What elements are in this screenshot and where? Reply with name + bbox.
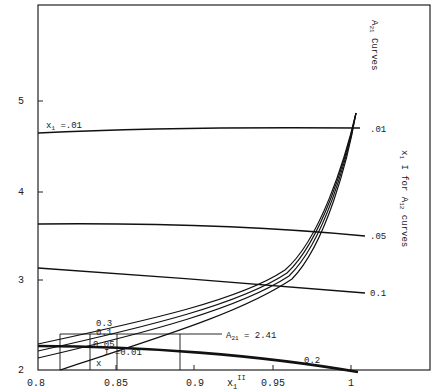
curve-a21-005 <box>38 113 356 358</box>
curve-a21-03 <box>38 113 356 344</box>
y-tick-labels: 5 4 3 2 <box>18 96 24 376</box>
right-label-02: 0.2 <box>304 356 320 366</box>
right-label-005: .05 <box>370 232 386 242</box>
y-tick: 5 <box>18 96 24 107</box>
label-x1: x <box>96 359 101 369</box>
y-tick: 3 <box>18 275 24 286</box>
right-label-01: 0.1 <box>370 289 386 299</box>
x-tick: 0.9 <box>186 378 204 389</box>
x-tick: 0.8 <box>27 378 45 389</box>
a21-curves <box>38 113 356 370</box>
right-label-001: .01 <box>370 125 386 135</box>
label-x1-001: x1 =.01 <box>46 121 82 132</box>
curve-a12-001 <box>38 128 360 133</box>
right-axis-title: x1 I for A12 curves <box>398 150 409 247</box>
label-01: 0.1 <box>96 328 112 338</box>
x-axis-title: x1II <box>227 374 246 391</box>
x-tick: 0.95 <box>261 378 285 389</box>
annotations: x1 =.01 A21 = 2.41 0.3 0.1 0.05 I =0.01 … <box>46 121 386 369</box>
a21-curves-title: A21 Curves <box>368 20 379 70</box>
y-tick: 4 <box>18 187 24 198</box>
chart: 0.8 0.85 0.9 0.95 1 5 4 3 2 x1II <box>0 0 441 392</box>
a12-curves <box>38 128 365 372</box>
y-tick: 2 <box>18 365 24 376</box>
x-tick: 1 <box>348 378 354 389</box>
label-xi-001: I =0.01 <box>104 348 142 358</box>
curve-a12-01 <box>38 268 365 293</box>
curve-a12-005 <box>38 224 365 236</box>
y-axis <box>38 101 43 280</box>
label-a21-241: A21 = 2.41 <box>226 331 276 342</box>
x-tick: 0.85 <box>104 378 128 389</box>
x-tick-labels: 0.8 0.85 0.9 0.95 1 <box>27 378 354 389</box>
